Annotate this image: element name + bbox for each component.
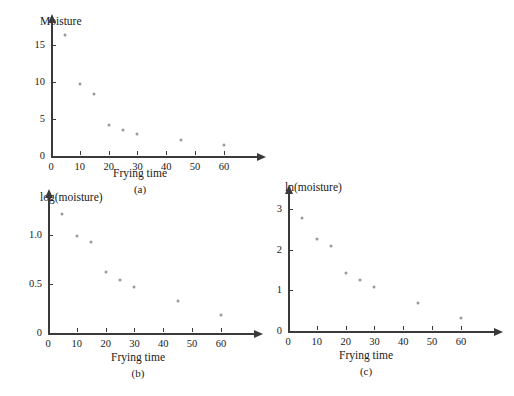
x-tick-a-5 [195,151,196,155]
x-tick-label-b-0: 0 [45,339,50,350]
data-point [61,212,64,215]
data-point [222,143,225,146]
data-point [219,314,222,317]
data-point [107,123,110,126]
x-tick-label-a-0: 0 [48,162,53,173]
y-axis-label-a: Moisture [40,16,82,28]
y-tick-b-2 [49,235,53,236]
x-tick-label-a-5: 50 [190,162,201,173]
x-tick-c-5 [432,326,433,330]
x-axis-label-b: Frying time [111,352,165,364]
x-tick-a-1 [80,151,81,155]
data-point [301,216,304,219]
panel-caption-c: (c) [360,366,372,377]
data-point [119,278,122,281]
data-point [176,300,179,303]
data-point [359,279,362,282]
x-axis-line-c [288,331,494,333]
y-tick-c-2 [289,250,293,251]
x-tick-a-6 [224,151,225,155]
y-tick-c-1 [289,290,293,291]
data-point [136,132,139,135]
data-point [330,245,333,248]
y-tick-a-2 [52,82,56,83]
x-tick-b-6 [221,328,222,332]
y-tick-label-a-0: 0 [19,151,45,162]
x-tick-label-b-3: 30 [129,339,140,350]
y-axis-line-c [288,193,290,332]
data-point [179,139,182,142]
y-tick-a-3 [52,45,56,46]
x-tick-label-c-0: 0 [285,337,290,348]
y-tick-label-b-0: 0 [16,328,42,339]
y-tick-a-1 [52,119,56,120]
data-point [315,237,318,240]
x-axis-label-c: Frying time [339,350,393,362]
x-tick-a-3 [137,151,138,155]
x-tick-label-c-3: 30 [369,337,380,348]
x-tick-label-b-4: 40 [158,339,169,350]
x-tick-label-a-6: 60 [219,162,230,173]
x-tick-label-b-2: 20 [100,339,111,350]
x-tick-label-c-4: 40 [398,337,409,348]
data-point [122,129,125,132]
data-point [78,83,81,86]
y-axis-arrow-b [45,189,53,198]
y-tick-b-1 [49,284,53,285]
y-axis-line-a [51,22,53,157]
y-tick-label-b-1: 0.5 [16,279,42,290]
x-tick-b-2 [106,328,107,332]
data-point [90,241,93,244]
x-tick-label-b-6: 60 [216,339,227,350]
data-point [104,270,107,273]
x-axis-label-a: Frying time [113,168,167,180]
x-tick-c-3 [374,326,375,330]
x-tick-label-c-5: 50 [427,337,438,348]
x-tick-b-3 [134,328,135,332]
y-tick-label-c-1: 1 [256,285,282,296]
y-tick-label-a-1: 5 [19,114,45,125]
data-point [416,301,419,304]
y-tick-label-c-0: 0 [256,326,282,337]
panel-caption-b: (b) [132,368,145,379]
chart-panel-a: Moisture 0102030405060051015 Frying time… [0,0,290,196]
chart-panel-b: log(moisture) 010203040506000.51.0 Fryin… [0,180,290,396]
y-tick-label-a-2: 10 [19,77,45,88]
x-tick-a-4 [166,151,167,155]
y-axis-line-b [48,197,50,334]
x-tick-c-1 [317,326,318,330]
y-tick-label-a-3: 15 [19,40,45,51]
y-tick-c-3 [289,209,293,210]
data-point [64,34,67,37]
x-tick-label-c-1: 10 [312,337,323,348]
data-point [133,285,136,288]
x-tick-a-2 [109,151,110,155]
x-tick-label-c-6: 60 [456,337,467,348]
y-tick-label-c-2: 2 [256,245,282,256]
data-point [344,271,347,274]
x-tick-b-1 [77,328,78,332]
x-tick-b-5 [192,328,193,332]
data-point [373,285,376,288]
data-point [93,92,96,95]
y-tick-label-c-3: 3 [256,204,282,215]
x-tick-c-4 [403,326,404,330]
x-tick-label-b-1: 10 [72,339,83,350]
x-tick-label-b-5: 50 [187,339,198,350]
x-axis-line-b [48,333,254,335]
x-tick-c-2 [346,326,347,330]
x-tick-b-4 [163,328,164,332]
x-axis-arrow-c [494,328,503,336]
y-axis-label-c: ln(moisture) [285,182,342,194]
data-point [459,317,462,320]
y-axis-arrow-c [285,185,293,194]
x-tick-label-c-2: 20 [340,337,351,348]
data-point [75,234,78,237]
x-tick-c-6 [461,326,462,330]
y-tick-label-b-2: 1.0 [16,229,42,240]
y-axis-arrow-a [48,14,56,23]
chart-panel-c: ln(moisture) 01020304050600123 Frying ti… [248,172,514,396]
x-axis-line-a [51,156,257,158]
x-axis-arrow-a [257,153,266,161]
x-tick-label-a-1: 10 [75,162,86,173]
